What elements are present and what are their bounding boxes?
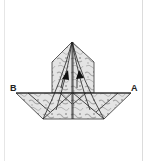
diagram-frame: B A [0, 0, 151, 161]
label-b: B [10, 83, 17, 93]
origami-diagram: B A [0, 0, 151, 161]
label-a: A [131, 83, 138, 93]
